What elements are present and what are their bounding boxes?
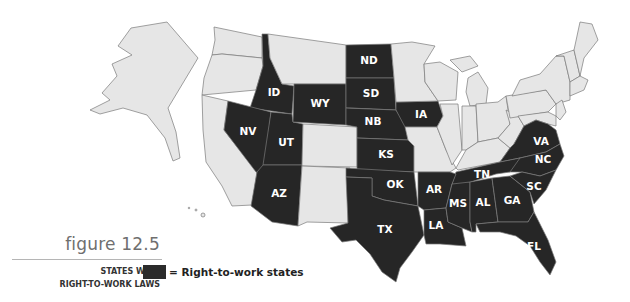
figure-title-line-2: RIGHT-TO-WORK LAWS [0,278,160,291]
label-tn: TN [474,168,490,180]
label-id: ID [268,86,281,98]
label-wy: WY [310,97,330,109]
label-ut: UT [278,136,295,148]
legend-swatch [143,265,166,279]
label-sc: SC [526,180,542,192]
state-nm [298,166,350,226]
label-tx: TX [377,223,392,235]
state-hi-island [195,209,197,211]
legend-label: = Right-to-work states [169,266,304,278]
caption-divider [12,259,162,260]
figure-title: STATES WITH RIGHT-TO-WORK LAWS [0,265,162,291]
label-ks: KS [378,148,394,160]
figure-caption: figure 12.5 STATES WITH RIGHT-TO-WORK LA… [0,234,162,291]
label-nv: NV [240,125,258,137]
state-co [302,124,357,167]
state-wa [212,27,262,58]
state-ak [90,22,198,161]
label-az: AZ [271,187,287,199]
label-ia: IA [415,108,428,120]
state-or [202,54,263,95]
label-ga: GA [504,194,522,206]
state-hi-island [188,207,190,209]
figure-number: figure 12.5 [0,234,162,254]
label-nd: ND [360,54,378,66]
label-la: LA [429,219,445,231]
label-sd: SD [363,87,380,99]
state-hi [201,213,205,217]
label-fl: FL [527,240,541,252]
label-nc: NC [535,153,552,165]
label-ms: MS [449,197,467,209]
figure-title-line-1: STATES WITH [0,265,160,278]
legend: = Right-to-work states [143,265,304,279]
state-mt [268,34,346,84]
state-nj [556,100,566,120]
label-nb: NB [365,115,382,127]
label-al: AL [476,196,491,208]
label-va: VA [533,135,549,147]
label-ar: AR [426,183,442,195]
label-ok: OK [386,178,404,190]
